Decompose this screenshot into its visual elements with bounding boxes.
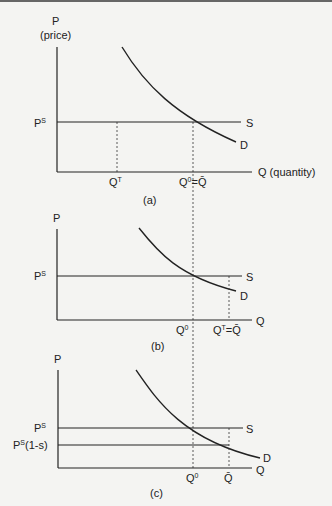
panel-b-supply-label: S (246, 271, 253, 283)
panel-b-y-axis-label: P (53, 212, 60, 224)
panel-c-caption: (c) (150, 487, 163, 499)
panel-a-caption: (a) (143, 194, 156, 206)
panel-b: P Q PS S D Q0 QT=Q̄ (b) (34, 212, 265, 352)
panel-a-y-axis-sublabel: (price) (40, 29, 71, 41)
panel-b-q0-label: Q0 (176, 324, 189, 336)
panel-c-demand-label: D (263, 452, 271, 464)
panel-c-price-label: PS (34, 422, 46, 434)
panel-b-x-axis-label: Q (256, 315, 265, 327)
panel-a-demand-label: D (240, 139, 248, 151)
economics-diagram: P (price) Q (quantity) PS S D QT Q0=Q̄ (… (0, 0, 332, 506)
panel-a-x-axis-label: Q (quantity) (258, 166, 315, 178)
panel-a-qt-label: QT (109, 176, 123, 188)
panel-c-subsidized-price-label: PS(1-s) (13, 439, 48, 451)
panel-a-demand-curve (122, 47, 236, 142)
panel-a-price-label: PS (34, 117, 46, 129)
panel-a-q0-label: Q0=Q̄ (179, 176, 207, 188)
panel-c-q0-label: Q0 (186, 472, 199, 484)
panel-b-demand-curve (139, 228, 236, 291)
panel-b-qt-label: QT=Q̄ (213, 324, 241, 336)
panel-c-qbar-label: Q̄ (224, 472, 233, 484)
panel-c-x-axis-label: Q (256, 464, 265, 476)
panel-c-y-axis-label: P (54, 353, 61, 365)
panel-c: P Q PS S PS(1-s) D Q0 Q̄ (c) (13, 353, 271, 499)
panel-b-caption: (b) (151, 340, 164, 352)
panel-a-supply-label: S (246, 117, 253, 129)
panel-a: P (price) Q (quantity) PS S D QT Q0=Q̄ (… (34, 15, 315, 206)
panel-b-price-label: PS (34, 270, 46, 282)
panel-b-demand-label: D (240, 290, 248, 302)
panel-c-supply-label: S (246, 423, 253, 435)
panel-a-y-axis-label: P (52, 15, 59, 27)
